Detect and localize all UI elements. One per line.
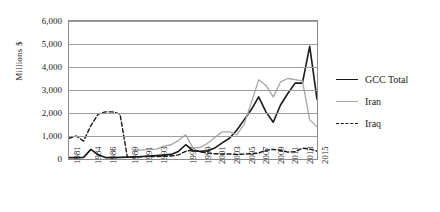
- legend-label: Iraq: [365, 118, 381, 129]
- x-axis-tick-label: 2003: [233, 146, 242, 164]
- legend-item[interactable]: Iran: [336, 90, 440, 112]
- gridline: [69, 113, 317, 114]
- legend-swatch-gcc-total: [336, 79, 358, 80]
- series-line-gcc-total: [69, 46, 317, 157]
- y-axis-tick-label: 6,000: [22, 17, 62, 26]
- x-axis-tick-label: 1984: [94, 146, 103, 164]
- gridline: [69, 44, 317, 45]
- x-axis-tick-label: 1981: [73, 146, 82, 164]
- legend-item[interactable]: Iraq: [336, 112, 440, 134]
- x-axis-tick-label: 1989: [131, 146, 140, 164]
- gridline: [69, 21, 317, 22]
- gridline: [69, 136, 317, 137]
- chart-legend: GCC TotalIranIraq: [336, 68, 440, 134]
- x-axis-tick-label: 2009: [277, 146, 286, 164]
- y-axis-tick-label: 2,000: [22, 109, 62, 118]
- x-axis-tick-label: 2013: [306, 146, 315, 164]
- gridline: [69, 67, 317, 68]
- x-axis-tick-label: 2007: [262, 146, 271, 164]
- x-axis-tick-label: 2015: [321, 146, 330, 164]
- x-axis-tick-label: 1997: [189, 146, 198, 164]
- y-axis-tick-label: 0: [22, 155, 62, 164]
- x-axis-tick-label: 1999: [204, 146, 213, 164]
- y-axis-tick-label: 4,000: [22, 63, 62, 72]
- legend-label: GCC Total: [365, 74, 408, 85]
- chart-container: Millions $ 6,0005,0004,0003,0002,0001,00…: [0, 0, 440, 212]
- x-axis-tick-label: 2001: [218, 146, 227, 164]
- y-axis-tick-label: 3,000: [22, 86, 62, 95]
- gridline: [69, 90, 317, 91]
- x-axis-tick-label: 1993: [160, 146, 169, 164]
- x-axis-tick-label: 1986: [109, 146, 118, 164]
- y-axis-tick-label: 5,000: [22, 40, 62, 49]
- x-axis-tick-label: 1991: [145, 146, 154, 164]
- legend-swatch-iran: [336, 101, 358, 102]
- legend-label: Iran: [365, 96, 381, 107]
- legend-item[interactable]: GCC Total: [336, 68, 440, 90]
- x-axis-tick-label: 2011: [291, 147, 300, 165]
- y-axis-tick-label: 1,000: [22, 132, 62, 141]
- x-axis-tick-label: 2005: [248, 146, 257, 164]
- plot-area: [68, 20, 318, 160]
- legend-swatch-iraq: [336, 123, 358, 124]
